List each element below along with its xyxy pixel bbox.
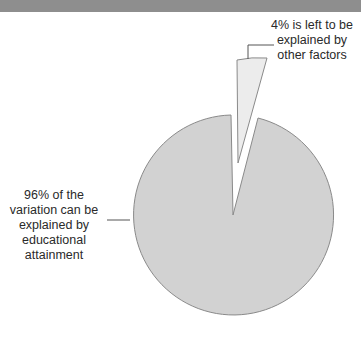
- pie-slice-educational-attainment: [134, 115, 334, 315]
- annotation-line: attainment: [0, 248, 108, 263]
- annotation-line: explained by: [262, 33, 361, 48]
- annotation-line: explained by: [0, 218, 108, 233]
- annotation-line: 4% is left to be: [262, 18, 361, 33]
- annotation-other-factors: 4% is left to be explained by other fact…: [262, 18, 361, 63]
- annotation-line: variation can be: [0, 203, 108, 218]
- annotation-line: educational: [0, 233, 108, 248]
- annotation-line: other factors: [262, 48, 361, 63]
- annotation-line: 96% of the: [0, 188, 108, 203]
- annotation-educational-attainment: 96% of the variation can be explained by…: [0, 188, 108, 263]
